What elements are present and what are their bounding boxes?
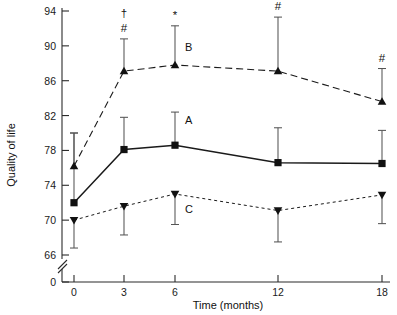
- series-label-A: A: [185, 114, 193, 126]
- marker-triangle-down: [274, 207, 283, 215]
- marker-square: [70, 199, 77, 206]
- series-B: [70, 17, 387, 169]
- data-series-group: [70, 17, 387, 248]
- y-tick-label: 82: [44, 110, 56, 122]
- series-line-A: [74, 145, 382, 203]
- marker-triangle-up: [171, 61, 180, 69]
- x-tick-label: 0: [71, 286, 77, 298]
- x-axis: 0361218: [62, 275, 390, 298]
- series-C: [70, 191, 387, 248]
- series-label-C: C: [185, 203, 193, 215]
- marker-square: [274, 159, 281, 166]
- marker-square: [120, 146, 127, 153]
- annotation-symbol: #: [121, 22, 128, 34]
- x-tick-label: 18: [376, 286, 388, 298]
- y-axis-title: Quality of life: [5, 123, 17, 187]
- series-inline-labels: BAC: [185, 41, 193, 215]
- annotation-symbol: #: [379, 52, 386, 64]
- marker-triangle-down: [70, 217, 79, 225]
- y-tick-label: 86: [44, 75, 56, 87]
- y-tick-label: 0: [50, 276, 56, 288]
- marker-square: [378, 160, 385, 167]
- marker-triangle-down: [171, 191, 180, 199]
- y-tick-label: 70: [44, 214, 56, 226]
- y-tick-label: 94: [44, 5, 56, 17]
- significance-annotations: #†*#†#: [121, 0, 386, 64]
- marker-triangle-down: [378, 192, 387, 200]
- y-tick-label: 90: [44, 40, 56, 52]
- annotation-symbol: #: [275, 0, 282, 12]
- series-line-C: [74, 194, 382, 220]
- series-label-B: B: [185, 41, 192, 53]
- y-tick-label: 74: [44, 179, 56, 191]
- quality-of-life-chart: 06670747882869094 0361218 #†*#†# BAC Qua…: [0, 0, 397, 315]
- marker-square: [171, 142, 178, 149]
- annotation-symbol: †: [121, 7, 127, 19]
- y-axis: 06670747882869094: [44, 5, 69, 288]
- y-tick-label: 78: [44, 144, 56, 156]
- annotation-symbol: *: [173, 9, 178, 21]
- x-tick-label: 12: [272, 286, 284, 298]
- series-line-B: [74, 65, 382, 166]
- marker-triangle-up: [70, 162, 79, 170]
- chart-svg: 06670747882869094 0361218 #†*#†# BAC Qua…: [0, 0, 397, 315]
- x-tick-label: 6: [172, 286, 178, 298]
- series-A: [70, 112, 386, 206]
- x-tick-label: 3: [121, 286, 127, 298]
- axis-break-mark-1: [58, 260, 67, 269]
- x-axis-title: Time (months): [193, 299, 264, 311]
- y-tick-label: 66: [44, 249, 56, 261]
